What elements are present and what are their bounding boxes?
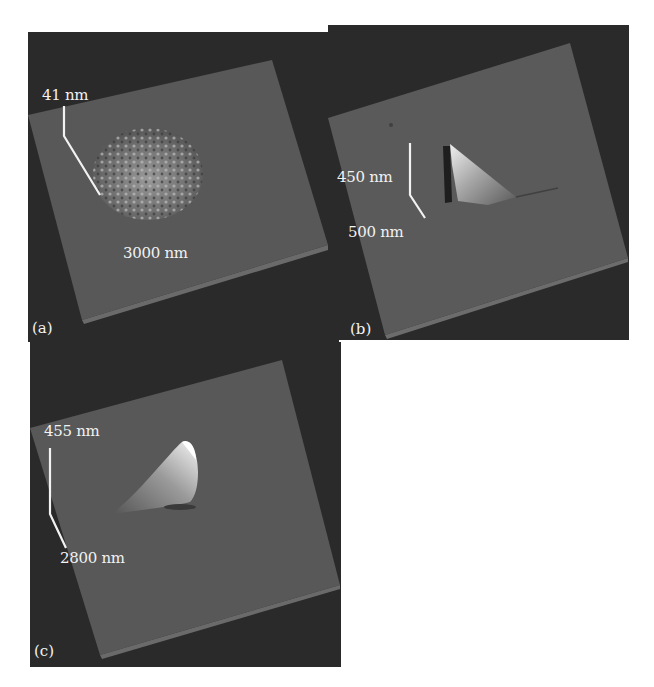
height-scale-label-b: 450 nm <box>337 168 392 186</box>
panel-letter-c: (c) <box>34 642 54 660</box>
afm-surface-a <box>28 32 339 342</box>
lateral-scale-label-b: 500 nm <box>348 223 403 241</box>
panel-letter-a: (a) <box>32 319 53 337</box>
panel-letter-b: (b) <box>350 320 371 338</box>
lateral-scale-label-a: 3000 nm <box>123 244 188 262</box>
afm-surface-c <box>30 342 341 667</box>
height-scale-label-a: 41 nm <box>42 86 88 104</box>
panel-a: 41 nm 3000 nm (a) <box>28 32 339 342</box>
height-scale-label-c: 455 nm <box>44 422 99 440</box>
panel-b: 450 nm 500 nm (b) <box>328 25 629 340</box>
lateral-scale-label-c: 2800 nm <box>60 549 125 567</box>
panel-c: 455 nm 2800 nm (c) <box>30 342 341 667</box>
